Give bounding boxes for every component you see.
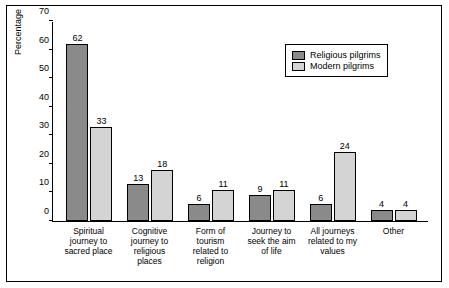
bar-modern: 18 bbox=[151, 170, 173, 221]
bar-value: 13 bbox=[133, 173, 143, 183]
bar-value: 6 bbox=[197, 193, 202, 203]
bar-group: 62 33 bbox=[66, 22, 112, 221]
bar-value: 4 bbox=[403, 199, 408, 209]
bar-religious: 62 bbox=[66, 44, 88, 221]
legend-item-religious: Religious pilgrims bbox=[292, 50, 381, 60]
x-label-2: Form oftourismrelated toreligion bbox=[182, 226, 240, 266]
legend-swatch-religious bbox=[292, 51, 305, 60]
x-label-0: Spiritualjourney tosacred place bbox=[60, 226, 118, 266]
bar-value: 24 bbox=[340, 141, 350, 151]
bar-value: 9 bbox=[257, 184, 262, 194]
bar-chart: Percentage 0 10 20 30 40 50 60 70 62 bbox=[0, 0, 449, 288]
bar-group: 13 18 bbox=[127, 22, 173, 221]
bar-religious: 6 bbox=[310, 204, 332, 221]
y-tick-20: 20 bbox=[39, 149, 49, 159]
x-axis-labels: Spiritualjourney tosacred place Cognitiv… bbox=[52, 226, 428, 266]
y-tick-40: 40 bbox=[39, 92, 49, 102]
legend: Religious pilgrims Modern pilgrims bbox=[285, 44, 388, 77]
x-label-3: Journey toseek the aimof life bbox=[243, 226, 301, 266]
bar-group: 6 11 bbox=[188, 22, 234, 221]
bar-value: 11 bbox=[279, 179, 288, 189]
bar-modern: 11 bbox=[273, 190, 295, 221]
x-label-4: All journeysrelated to myvalues bbox=[304, 226, 362, 266]
bar-religious: 13 bbox=[127, 184, 149, 221]
bar-religious: 4 bbox=[371, 210, 393, 221]
legend-swatch-modern bbox=[292, 62, 305, 71]
bar-modern: 33 bbox=[90, 127, 112, 221]
bar-value: 6 bbox=[318, 193, 323, 203]
x-label-1: Cognitivejourney toreligiousplaces bbox=[121, 226, 179, 266]
y-axis-title-wrap: Percentage bbox=[19, 6, 39, 206]
bar-value: 4 bbox=[379, 199, 384, 209]
y-tick-10: 10 bbox=[39, 177, 49, 187]
plot-area: 0 10 20 30 40 50 60 70 62 33 bbox=[52, 22, 428, 222]
bar-value: 11 bbox=[218, 179, 227, 189]
bar-value: 33 bbox=[96, 116, 106, 126]
y-tick-70: 70 bbox=[39, 6, 49, 16]
bar-religious: 9 bbox=[249, 195, 271, 221]
bar-value: 62 bbox=[72, 33, 82, 43]
bar-religious: 6 bbox=[188, 204, 210, 221]
legend-item-modern: Modern pilgrims bbox=[292, 61, 381, 71]
chart-frame: Percentage 0 10 20 30 40 50 60 70 62 bbox=[6, 5, 442, 282]
bar-value: 18 bbox=[157, 159, 167, 169]
bar-modern: 4 bbox=[395, 210, 417, 221]
legend-label-modern: Modern pilgrims bbox=[310, 61, 374, 71]
legend-label-religious: Religious pilgrims bbox=[310, 50, 381, 60]
y-tick-30: 30 bbox=[39, 120, 49, 130]
bar-modern: 11 bbox=[212, 190, 234, 221]
y-axis-title: Percentage bbox=[13, 0, 23, 92]
y-tick-60: 60 bbox=[39, 35, 49, 45]
y-tick-50: 50 bbox=[39, 63, 49, 73]
bar-modern: 24 bbox=[334, 152, 356, 221]
x-label-5: Other bbox=[365, 226, 423, 266]
y-tick-0: 0 bbox=[44, 206, 49, 216]
